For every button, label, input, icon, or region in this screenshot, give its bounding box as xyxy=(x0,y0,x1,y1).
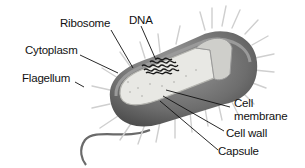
bacterial-cell-diagram: Ribosome DNA Cytoplasm Flagellum Cell me… xyxy=(0,0,305,168)
label-cytoplasm: Cytoplasm xyxy=(25,44,78,56)
label-flagellum: Flagellum xyxy=(22,72,70,84)
label-cell-wall: Cell wall xyxy=(226,127,267,139)
label-capsule: Capsule xyxy=(218,145,259,157)
label-cell-membrane-line2: membrane xyxy=(234,110,287,122)
label-cell-membrane-line1: Cell xyxy=(234,97,253,109)
label-dna: DNA xyxy=(129,14,153,26)
label-ribosome: Ribosome xyxy=(60,17,110,29)
flagellum-shape xyxy=(81,130,150,165)
